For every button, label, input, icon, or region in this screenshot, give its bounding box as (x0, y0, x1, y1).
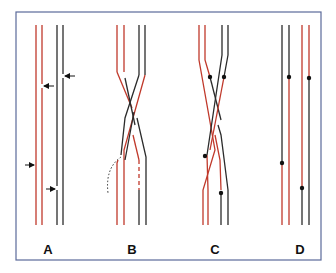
diagram-figure: A B C D (0, 0, 336, 273)
frame-border (16, 12, 321, 260)
panel-d (280, 25, 311, 225)
panel-label-c: C (205, 242, 225, 257)
junction-dot-icon (222, 75, 226, 79)
junction-dot-icon (280, 161, 284, 165)
junction-dot-icon (219, 191, 223, 195)
panel-c (199, 25, 228, 225)
panel-label-b: B (122, 242, 142, 257)
junction-dot-icon (307, 76, 311, 80)
panel-label-a: A (38, 242, 58, 257)
junction-dot-icon (287, 75, 291, 79)
junction-dot-icon (300, 186, 304, 190)
junction-dot-icon (208, 75, 212, 79)
junction-dot-icon (203, 154, 207, 158)
panel-label-d: D (290, 242, 310, 257)
diagram-canvas (0, 0, 336, 273)
panel-a (25, 25, 75, 225)
panel-b (108, 25, 146, 225)
